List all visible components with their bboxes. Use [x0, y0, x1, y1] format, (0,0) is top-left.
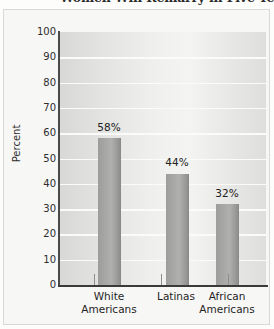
y-tick-20: 20: [22, 229, 56, 239]
chart-title: Women Will Remarry in Five Years: [60, 0, 274, 5]
chart-card: Percent 100 90 80 70 60 50 40 30 20 10 0: [3, 9, 270, 325]
gridline-90: [60, 57, 266, 59]
gridline-80: [60, 83, 266, 85]
y-axis-ticks: 100 90 80 70 60 50 40 30 20 10 0: [18, 32, 56, 285]
y-tick-40: 40: [22, 179, 56, 189]
y-tick-100: 100: [22, 27, 56, 37]
y-tick-90: 90: [22, 52, 56, 62]
bar-latinas: [166, 174, 189, 285]
x-label-white-americans: White Americans: [72, 290, 146, 315]
x-label-white-americans-line1: White: [72, 290, 146, 303]
gridline-60: [60, 133, 266, 135]
plot-area: 58% 44% 32%: [60, 32, 266, 285]
bar-african-americans: [216, 204, 239, 285]
y-tick-60: 60: [22, 128, 56, 138]
x-label-african-americans-line1: African: [190, 290, 264, 303]
x-axis-labels: White Americans Latinas African American…: [60, 290, 266, 324]
gridline-40: [60, 184, 266, 186]
bar-value-white-americans: 58%: [86, 121, 132, 133]
y-tick-0: 0: [22, 280, 56, 290]
y-tick-70: 70: [22, 103, 56, 113]
chart-screenshot: Women Will Remarry in Five Years Percent…: [0, 0, 274, 329]
bar-value-latinas: 44%: [154, 156, 200, 168]
y-tick-50: 50: [22, 154, 56, 164]
x-label-african-americans: African Americans: [190, 290, 264, 315]
bar-value-african-americans: 32%: [204, 187, 250, 199]
x-label-african-americans-line2: Americans: [190, 303, 264, 316]
x-label-white-americans-line2: Americans: [72, 303, 146, 316]
x-axis-line: [58, 285, 268, 287]
y-tick-30: 30: [22, 204, 56, 214]
y-tick-80: 80: [22, 78, 56, 88]
gridline-70: [60, 108, 266, 110]
bar-white-americans: [98, 138, 121, 285]
plot-inner: 58% 44% 32%: [60, 32, 266, 285]
y-tick-10: 10: [22, 255, 56, 265]
